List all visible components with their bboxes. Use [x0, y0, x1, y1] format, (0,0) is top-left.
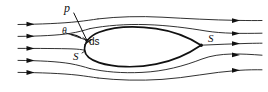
- inlet-flow-arrowheads: [27, 22, 35, 75]
- arrow-outlet-3: [232, 41, 240, 46]
- trailing-stagnation-dot: [200, 44, 203, 47]
- body-section: [85, 27, 201, 67]
- arrow-outlet-1: [232, 18, 240, 23]
- trailing-stagnation-label: S: [208, 33, 214, 44]
- arrow-outlet-5: [232, 68, 240, 73]
- theta-angle-label: θ: [62, 27, 67, 37]
- pressure-label: p: [64, 2, 70, 14]
- arrow-outlet-2: [232, 31, 240, 36]
- outlet-flow-arrowheads: [232, 18, 240, 72]
- arrow-inlet-2: [27, 34, 35, 39]
- leading-stagnation-label: S: [73, 51, 79, 62]
- flow-diagram-figure: p θ ds S S: [0, 0, 268, 92]
- streamline-under-bottom: [98, 70, 262, 80]
- flow-diagram-canvas: [0, 0, 268, 92]
- arrow-inlet-3: [27, 46, 35, 51]
- arrow-inlet-1: [27, 22, 35, 27]
- body-outline-path: [85, 27, 201, 67]
- arrow-outlet-4: [232, 53, 240, 58]
- surface-element-label: ds: [89, 37, 100, 47]
- arrow-inlet-4: [27, 58, 35, 63]
- arrow-inlet-5: [27, 70, 35, 75]
